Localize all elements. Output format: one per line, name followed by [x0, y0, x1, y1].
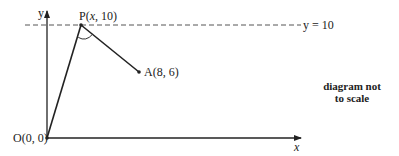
point-a-label: A(8, 6): [144, 65, 179, 79]
not-to-scale-note-line1: diagram not: [323, 80, 381, 92]
x-axis-label: x: [293, 140, 300, 154]
point-o-label: O(0, 0): [13, 131, 48, 145]
dashed-line-label: y = 10: [303, 18, 334, 32]
coordinate-diagram: y x P(x, 10) A(8, 6) O(0, 0) y = 10 diag…: [0, 0, 399, 156]
point-p-label: P(x, 10): [79, 9, 117, 23]
segment-pa: [81, 25, 139, 72]
point-p: [79, 23, 83, 27]
point-a: [137, 70, 141, 74]
y-axis-label: y: [38, 6, 44, 20]
not-to-scale-note-line2: to scale: [335, 92, 370, 104]
segment-op: [47, 25, 81, 138]
angle-arc-p: [78, 34, 92, 39]
